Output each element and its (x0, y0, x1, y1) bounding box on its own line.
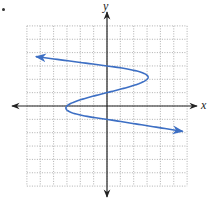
graph-figure (0, 0, 214, 200)
x-axis-label: x (201, 99, 206, 111)
y-axis-label: y (103, 0, 108, 12)
